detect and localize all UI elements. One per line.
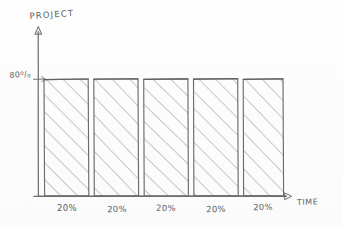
bar-label-5: 20% xyxy=(241,202,285,213)
bar-label-3: 20% xyxy=(144,203,188,214)
sketch-canvas: PROJECT 80o/o TIME 20% 20% 20% 20% 20% xyxy=(0,0,343,227)
bar-1 xyxy=(44,79,89,196)
percent-denominator: o xyxy=(27,71,31,78)
bar-3 xyxy=(144,79,189,196)
tick-value: 80 xyxy=(9,70,20,80)
bar-4 xyxy=(194,79,239,196)
bar-chart-drawing xyxy=(0,0,343,227)
y-axis xyxy=(35,27,42,197)
percent-sign: o xyxy=(20,69,24,76)
bar-2 xyxy=(94,79,139,196)
bar-label-1: 20% xyxy=(45,203,89,213)
x-axis-label: TIME xyxy=(297,197,319,207)
y-axis-tick-label-80: 80o/o xyxy=(9,68,31,80)
bar-5 xyxy=(243,79,283,196)
bar-label-4: 20% xyxy=(194,203,238,215)
bar-label-2: 20% xyxy=(95,204,139,215)
